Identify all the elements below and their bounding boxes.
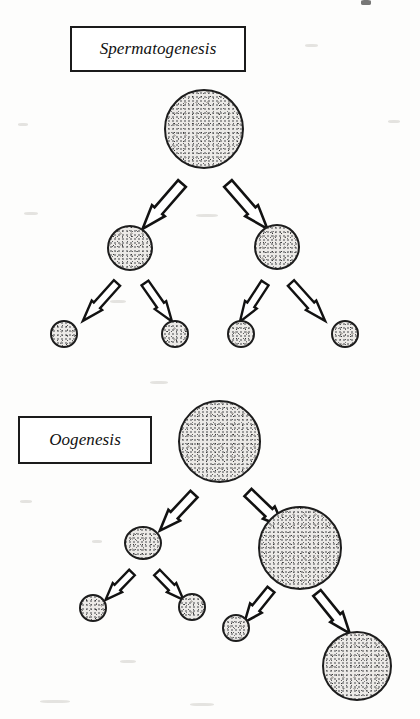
oogenesis-label-box: Oogenesis (18, 416, 152, 464)
cell-secondary-spermatocyte-left (107, 225, 153, 271)
cell-primary-oocyte (178, 400, 261, 483)
cell-polar-body-b (178, 593, 206, 621)
cell-spermatid-4 (331, 320, 359, 348)
cell-ovum (322, 631, 392, 701)
cell-polar-body-c (222, 614, 250, 642)
arrow-meiosis1-left (136, 178, 188, 234)
scan-speck (24, 212, 38, 215)
oogenesis-label-text: Oogenesis (49, 430, 121, 450)
scan-artifact-top-right (361, 0, 371, 5)
spermatogenesis-label-box: Spermatogenesis (70, 26, 246, 72)
arrow-meiosis2-b (139, 279, 177, 326)
scan-speck (120, 660, 136, 663)
arrow-oo-meiosis1-left (154, 489, 200, 536)
cell-primary-spermatocyte (164, 89, 244, 169)
scan-speck (305, 44, 318, 47)
cell-polar-body-a (79, 594, 107, 622)
cell-secondary-oocyte (258, 506, 342, 590)
cell-spermatid-1 (50, 320, 78, 348)
cell-spermatid-3 (227, 320, 255, 348)
scan-speck (150, 381, 168, 384)
scan-speck (196, 214, 218, 217)
scan-speck (20, 500, 32, 503)
arrow-meiosis2-d (286, 278, 331, 325)
cell-first-polar-body (124, 526, 162, 560)
cell-spermatid-2 (161, 320, 189, 348)
scan-speck (40, 700, 70, 703)
scan-speck (18, 123, 28, 126)
cell-secondary-spermatocyte-right (254, 224, 300, 270)
spermatogenesis-label-text: Spermatogenesis (100, 39, 217, 59)
scan-speck (190, 703, 214, 706)
scan-speck (110, 300, 126, 303)
figure-canvas: Spermatogenesis (0, 0, 420, 719)
scan-speck (92, 540, 102, 543)
arrow-meiosis2-c (234, 279, 271, 325)
scan-speck (388, 120, 400, 123)
arrow-oo-polar-a (101, 568, 137, 604)
